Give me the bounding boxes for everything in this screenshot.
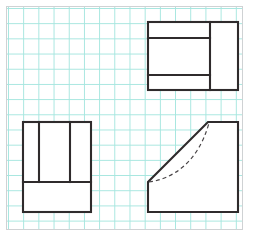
graph-paper [6,6,243,230]
drawing-sheet [0,0,255,239]
